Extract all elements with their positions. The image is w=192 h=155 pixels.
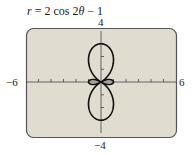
plot-svg xyxy=(0,0,192,155)
y-max-label: 4 xyxy=(98,17,104,28)
x-min-label: −6 xyxy=(6,77,18,88)
y-min-label: −4 xyxy=(94,140,106,151)
x-max-label: 6 xyxy=(179,77,185,88)
